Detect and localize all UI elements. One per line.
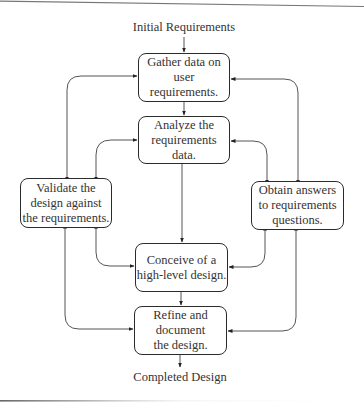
node-refine-design: Refine and document the design.: [134, 306, 227, 355]
connector-validate-conceive: [96, 228, 134, 266]
node-refine-design-text: Refine and document the design.: [153, 308, 208, 353]
connector-obtain-refine: [228, 230, 296, 331]
connector-validate-gather: [67, 76, 137, 177]
node-obtain-answers: Obtain answers to requirements questions…: [251, 181, 344, 230]
node-validate-design: Validate the design against the requirem…: [20, 178, 112, 228]
node-analyze-data-text: Analyze the requirements data.: [139, 118, 229, 163]
input-label: Initial Requirements: [124, 20, 244, 35]
output-label: Completed Design: [120, 370, 240, 385]
connector-validate-analyze: [96, 140, 137, 177]
bottom-rule: [0, 398, 364, 403]
node-obtain-answers-text: Obtain answers to requirements questions…: [258, 183, 336, 228]
node-conceive-design-text: Conceive of a high-level design.: [137, 253, 227, 283]
node-conceive-design: Conceive of a high-level design.: [135, 243, 228, 292]
connector-obtain-conceive: [229, 230, 265, 267]
connector-validate-refine: [65, 228, 133, 329]
node-analyze-data: Analyze the requirements data.: [138, 116, 230, 164]
connector-obtain-gather: [231, 79, 298, 180]
node-validate-design-text: Validate the design against the requirem…: [23, 181, 110, 226]
node-gather-data: Gather data on user requirements.: [138, 53, 230, 102]
connector-obtain-analyze: [231, 141, 267, 180]
node-gather-data-text: Gather data on user requirements.: [139, 55, 229, 100]
